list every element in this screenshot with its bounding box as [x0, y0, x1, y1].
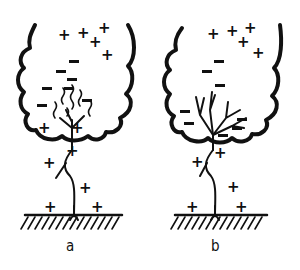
- cloud-b-outline: [164, 25, 281, 143]
- svg-text:+: +: [237, 33, 250, 51]
- panel-b-label: b: [211, 237, 220, 255]
- svg-text:+: +: [79, 179, 92, 197]
- svg-text:+: +: [214, 144, 227, 162]
- svg-text:+: +: [89, 33, 102, 51]
- panel-a-label: a: [66, 237, 74, 255]
- svg-text:+: +: [71, 119, 84, 137]
- svg-text:+: +: [38, 119, 51, 137]
- svg-text:+: +: [207, 25, 220, 43]
- svg-text:+: +: [43, 154, 56, 172]
- svg-text:+: +: [44, 198, 57, 216]
- svg-text:+: +: [91, 198, 104, 216]
- svg-text:+: +: [186, 198, 199, 216]
- svg-text:+: +: [58, 26, 71, 44]
- svg-text:+: +: [235, 198, 248, 216]
- lightning-diagram: + + + + + + + + + + + + + + + + + + + +: [0, 0, 300, 270]
- charges-b: + + + + + + + + + +: [180, 19, 265, 216]
- svg-text:+: +: [191, 153, 204, 171]
- charges-a: + + + + + + + + + + + +: [37, 19, 114, 216]
- svg-text:+: +: [77, 24, 90, 42]
- svg-text:+: +: [101, 46, 114, 64]
- svg-text:+: +: [252, 44, 265, 62]
- svg-text:+: +: [66, 142, 79, 160]
- svg-text:+: +: [227, 178, 240, 196]
- ground-b: [171, 215, 267, 229]
